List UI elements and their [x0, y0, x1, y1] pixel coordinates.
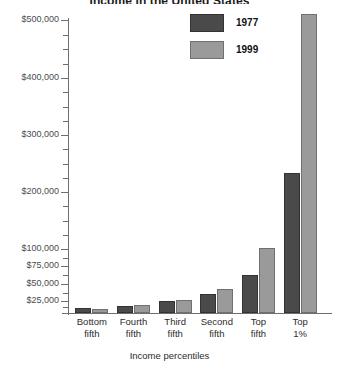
plot-area	[68, 20, 318, 313]
income-bar-chart: Income in the United States $25,000$50,0…	[0, 0, 339, 373]
y-axis-minor-tick	[63, 107, 68, 108]
bar-1999-bottom-fifth	[92, 309, 108, 313]
y-axis-minor-tick	[63, 121, 68, 122]
bar-1999-top-fifth	[259, 248, 275, 313]
x-axis-category-labels: Bottom fifthFourth fifthThird fifthSecon…	[62, 316, 332, 350]
y-axis-tick	[61, 135, 68, 136]
legend-swatch-1999	[190, 41, 224, 59]
x-axis-title: Income percentiles	[0, 350, 339, 361]
y-axis-minor-tick	[63, 235, 68, 236]
y-axis-minor-tick	[63, 178, 68, 179]
y-axis-tick-label: $300,000	[21, 129, 59, 139]
y-axis-minor-tick	[63, 293, 68, 294]
y-axis-minor-tick	[63, 35, 68, 36]
y-axis-tick	[61, 284, 68, 285]
y-axis-tick-label: $25,000	[26, 295, 59, 305]
y-axis-tick	[61, 78, 68, 79]
bar-1977-top-fifth	[242, 275, 258, 313]
y-axis-minor-tick	[63, 149, 68, 150]
y-axis-tick-label: $75,000	[26, 260, 59, 270]
legend-swatch-1977	[190, 14, 224, 32]
bar-1999-third-fifth	[176, 300, 192, 313]
y-axis-minor-tick	[63, 258, 68, 259]
x-axis-line	[62, 313, 332, 314]
bar-1977-fourth-fifth	[117, 306, 133, 313]
y-axis-minor-tick	[63, 49, 68, 50]
bar-1977-second-fifth	[200, 294, 216, 313]
y-axis-minor-tick	[63, 64, 68, 65]
y-axis-tick	[61, 192, 68, 193]
y-axis-minor-tick	[63, 206, 68, 207]
y-axis-labels: $25,000$50,000$75,000$100,000$200,000$30…	[0, 0, 68, 373]
y-axis-minor-tick	[63, 275, 68, 276]
y-axis-minor-tick	[63, 221, 68, 222]
bar-1977-top-1-	[284, 173, 300, 313]
y-axis-minor-tick	[63, 307, 68, 308]
legend-label-1977: 1977	[236, 17, 258, 28]
bar-1999-top-1-	[301, 14, 317, 313]
x-axis-label-top-1-: Top 1%	[272, 316, 328, 339]
bar-1999-second-fifth	[217, 289, 233, 313]
bar-1999-fourth-fifth	[134, 305, 150, 313]
bar-1977-third-fifth	[159, 301, 175, 313]
legend-label-1999: 1999	[236, 44, 258, 55]
y-axis-tick-label: $50,000	[26, 278, 59, 288]
y-axis-tick-label: $200,000	[21, 186, 59, 196]
y-axis-tick	[61, 266, 68, 267]
y-axis-tick	[61, 301, 68, 302]
y-axis-minor-tick	[63, 92, 68, 93]
y-axis-tick-label: $400,000	[21, 72, 59, 82]
bar-1977-bottom-fifth	[75, 308, 91, 313]
y-axis-tick	[61, 249, 68, 250]
y-axis-minor-tick	[63, 164, 68, 165]
y-axis-tick-label: $100,000	[21, 243, 59, 253]
y-axis-tick	[61, 20, 68, 21]
y-axis-tick-label: $500,000	[21, 14, 59, 24]
